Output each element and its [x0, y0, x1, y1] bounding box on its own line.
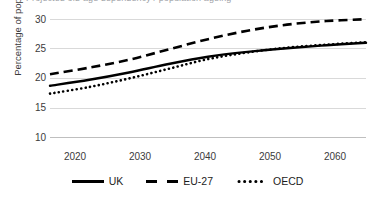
- x-tick-label: 2030: [114, 152, 166, 162]
- x-tick-label: 2050: [244, 152, 296, 162]
- y-tick-label: 25: [20, 44, 46, 54]
- legend-label-uk: UK: [109, 176, 124, 187]
- x-tick-label: 2060: [309, 152, 361, 162]
- y-tick-label: 15: [20, 103, 46, 113]
- y-tick-label: 10: [20, 133, 46, 143]
- plot-area: [50, 18, 366, 139]
- chart-title: Projected old-age dependency / populatio…: [26, 0, 231, 3]
- legend-swatch-dotted-icon: [235, 177, 269, 186]
- chart-title-strip: Projected old-age dependency / populatio…: [0, 0, 374, 7]
- series-plot: [50, 18, 366, 139]
- x-tick-label: 2020: [49, 152, 101, 162]
- legend-label-eu-27: EU-27: [183, 176, 213, 187]
- chart-figure: Projected old-age dependency / populatio…: [0, 0, 374, 197]
- legend-label-oecd: OECD: [273, 176, 303, 187]
- legend-item-eu-27[interactable]: EU-27: [145, 176, 213, 187]
- y-tick-label: 30: [20, 15, 46, 25]
- y-tick-label: 20: [20, 73, 46, 83]
- chart-legend: UK EU-27 OECD: [0, 176, 374, 187]
- legend-swatch-solid-icon: [71, 177, 105, 186]
- series-line-uk: [50, 43, 366, 86]
- legend-item-uk[interactable]: UK: [71, 176, 124, 187]
- legend-swatch-dashed-icon: [145, 177, 179, 186]
- x-tick-label: 2040: [179, 152, 231, 162]
- series-line-oecd: [50, 42, 366, 93]
- legend-item-oecd[interactable]: OECD: [235, 176, 303, 187]
